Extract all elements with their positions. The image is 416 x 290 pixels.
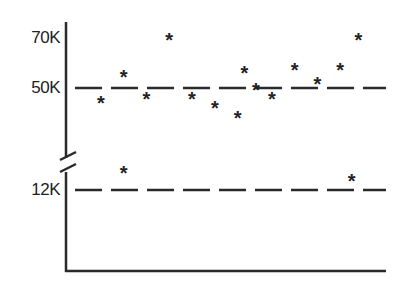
data-point-asterisk: * <box>314 73 322 95</box>
data-point-asterisk: * <box>143 88 151 110</box>
data-point-asterisk: * <box>348 170 356 192</box>
data-point-asterisk: * <box>252 79 260 101</box>
data-point-asterisk: * <box>241 62 249 84</box>
data-point-asterisk: * <box>165 29 173 51</box>
data-point-asterisk: * <box>188 88 196 110</box>
data-point-asterisk: * <box>291 59 299 81</box>
data-point-asterisk: * <box>97 92 105 114</box>
data-point-asterisk: * <box>120 162 128 184</box>
data-points: **************** <box>97 29 363 191</box>
axis-break-mark-bottom <box>60 164 76 172</box>
data-point-asterisk: * <box>336 59 344 81</box>
axis-break-mark-top <box>60 152 76 160</box>
data-point-asterisk: * <box>355 29 363 51</box>
data-point-asterisk: * <box>234 107 242 129</box>
data-point-asterisk: * <box>268 88 276 110</box>
scatter-chart: **************** <box>0 0 416 290</box>
data-point-asterisk: * <box>120 66 128 88</box>
data-point-asterisk: * <box>211 97 219 119</box>
